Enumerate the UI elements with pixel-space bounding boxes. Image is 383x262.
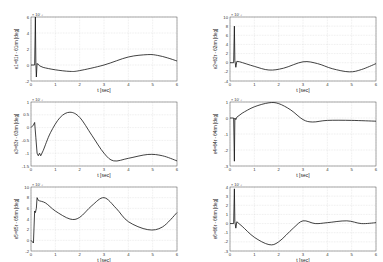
y-tick-label: 1 (226, 212, 229, 217)
x-axis-label: t [sec] (97, 172, 111, 178)
x-tick-label: 0 (229, 167, 232, 172)
x-tick-label: 0 (229, 252, 232, 257)
x-tick-label: 4 (127, 82, 130, 87)
subplot-e4: 0123456-3-2-101× 10⁻³t [sec]e4=θ4r - θ4r… (213, 98, 378, 179)
y-tick-label: 1 (27, 100, 30, 105)
x-axis-label: t [sec] (296, 87, 310, 93)
y-tick-label: 4 (226, 42, 229, 47)
x-tick-label: 1 (253, 167, 256, 172)
subplot-e3: 0123456-1.5-1-0.500.51× 10⁻³t [sec]e3=θ3… (14, 98, 179, 179)
x-tick-label: 2 (78, 252, 81, 257)
subplot-e1: 0123456-20246× 10⁻³t [sec]e1=θ1r - θ1rm … (14, 13, 179, 94)
x-tick-label: 5 (350, 167, 353, 172)
x-tick-label: 4 (326, 167, 329, 172)
y-tick-label: 6 (27, 206, 30, 211)
y-tick-label: 0.5 (23, 112, 29, 117)
y-axis-label: e2=θ2r - θ2rm [deg] (213, 29, 218, 69)
y-tick-label: -1.5 (22, 164, 30, 169)
x-tick-label: 5 (151, 252, 154, 257)
x-tick-label: 4 (326, 252, 329, 257)
x-tick-label: 6 (176, 252, 179, 257)
y-tick-label: 2 (27, 227, 30, 232)
y-tick-label: 0 (27, 63, 30, 68)
x-tick-label: 2 (78, 167, 81, 172)
x-axis-label: t [sec] (97, 257, 111, 262)
y-axis-label: e6=θ6r - θ6rm [deg] (213, 199, 218, 239)
x-tick-label: 2 (277, 167, 280, 172)
figure: 0123456-20246× 10⁻³t [sec]e1=θ1r - θ1rm … (0, 0, 383, 262)
x-tick-label: 4 (127, 252, 130, 257)
x-tick-label: 5 (350, 82, 353, 87)
y-tick-label: 3 (226, 194, 229, 199)
y-tick-label: 6 (27, 15, 30, 20)
x-tick-label: 6 (176, 82, 179, 87)
x-tick-label: 0 (30, 252, 33, 257)
y-tick-label: 4 (27, 31, 30, 36)
x-tick-label: 6 (375, 82, 378, 87)
x-tick-label: 0 (229, 82, 232, 87)
x-tick-label: 6 (375, 167, 378, 172)
y-tick-label: -0.5 (22, 138, 30, 143)
y-tick-label: -2 (224, 239, 228, 244)
x-tick-label: 4 (326, 82, 329, 87)
y-tick-label: 8 (27, 195, 30, 200)
exponent-label: × 10⁻³ (32, 183, 43, 187)
subplot-e6: 0123456-3-2-101234× 10⁻³t [sec]e6=θ6r - … (213, 183, 378, 262)
x-tick-label: 5 (350, 252, 353, 257)
exponent-label: × 10⁻³ (231, 183, 242, 187)
y-tick-label: -1 (25, 151, 29, 156)
y-tick-label: 2 (226, 203, 229, 208)
y-tick-label: -2 (224, 148, 228, 153)
y-tick-label: 0 (226, 116, 229, 121)
x-tick-label: 2 (277, 82, 280, 87)
x-axis-label: t [sec] (296, 257, 310, 262)
subplot-e2: 0123456-4-20246810× 10⁻³t [sec]e2=θ2r - … (213, 13, 378, 94)
y-tick-label: 10 (24, 185, 29, 190)
x-tick-label: 0 (30, 82, 33, 87)
y-tick-label: -1 (224, 132, 228, 137)
y-tick-label: 1 (226, 100, 229, 105)
y-tick-label: 10 (223, 15, 228, 20)
x-tick-label: 1 (253, 82, 256, 87)
y-tick-label: 4 (226, 185, 229, 190)
y-tick-label: 2 (226, 51, 229, 56)
exponent-label: × 10⁻³ (231, 13, 242, 17)
y-tick-label: 2 (27, 47, 30, 52)
exponent-label: × 10⁻³ (231, 98, 242, 102)
y-axis-label: e1=θ1r - θ1rm [deg] (14, 29, 19, 69)
y-tick-label: -1 (224, 230, 228, 235)
y-tick-label: 6 (226, 33, 229, 38)
y-tick-label: 0 (226, 60, 229, 65)
x-tick-label: 5 (151, 82, 154, 87)
exponent-label: × 10⁻³ (32, 98, 43, 102)
y-tick-label: 4 (27, 217, 30, 222)
x-axis-label: t [sec] (296, 172, 310, 178)
y-axis-label: e4=θ4r - θ4rm [deg] (213, 114, 218, 154)
x-axis-label: t [sec] (97, 87, 111, 93)
x-tick-label: 4 (127, 167, 130, 172)
x-tick-label: 2 (277, 252, 280, 257)
x-tick-label: 6 (375, 252, 378, 257)
y-tick-label: -2 (224, 69, 228, 74)
x-tick-label: 2 (78, 82, 81, 87)
y-tick-label: 8 (226, 24, 229, 29)
x-tick-label: 5 (151, 167, 154, 172)
y-axis-label: e3=θ3r - θ3rm [deg] (14, 114, 19, 154)
x-tick-label: 6 (176, 167, 179, 172)
y-axis-label: e5=θ5r - θ5rm [deg] (14, 199, 19, 239)
subplot-e5: 0123456-20246810× 10⁻³t [sec]e5=θ5r - θ5… (14, 183, 179, 262)
y-tick-label: 0 (27, 238, 30, 243)
y-tick-label: 0 (27, 125, 30, 130)
y-tick-label: 0 (226, 221, 229, 226)
x-tick-label: 1 (54, 82, 57, 87)
x-tick-label: 1 (54, 252, 57, 257)
x-tick-label: 1 (253, 252, 256, 257)
x-tick-label: 1 (54, 167, 57, 172)
exponent-label: × 10⁻³ (32, 13, 43, 17)
x-tick-label: 0 (30, 167, 33, 172)
